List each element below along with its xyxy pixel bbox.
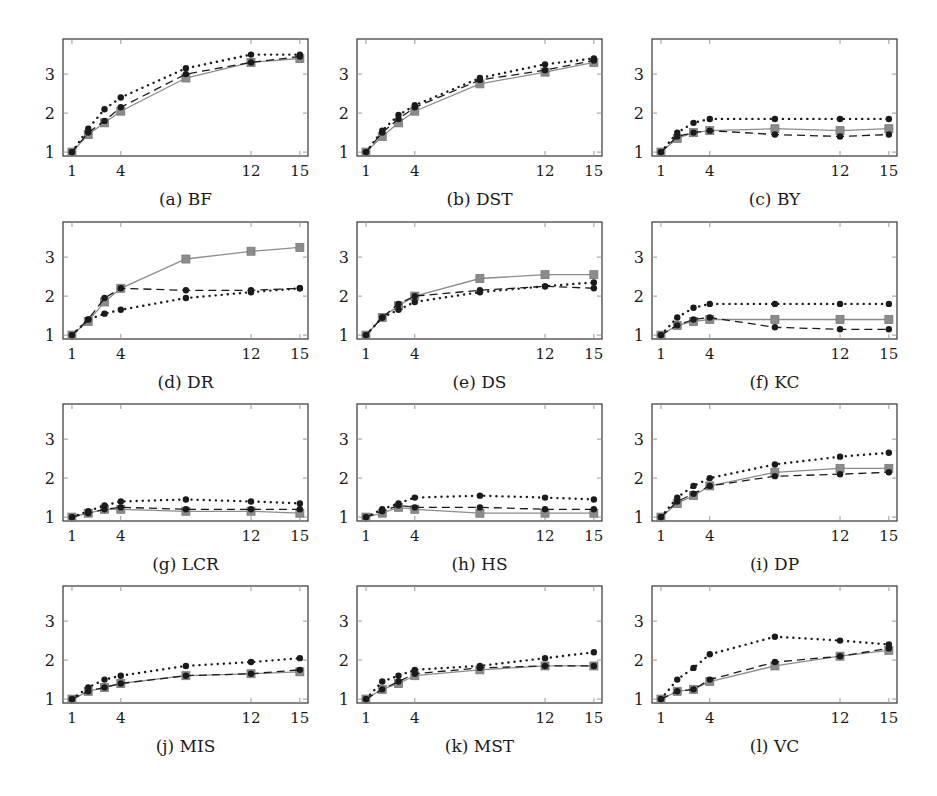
circle-marker-icon [886, 301, 892, 307]
circle-marker-icon [183, 295, 189, 301]
circle-marker-icon [412, 102, 418, 108]
circle-marker-icon [118, 94, 124, 100]
x-tick-label: 12 [535, 345, 554, 363]
y-tick-label: 1 [339, 143, 349, 162]
circle-marker-icon [837, 133, 843, 139]
y-tick-label: 2 [634, 469, 644, 488]
y-tick-label: 1 [339, 508, 349, 527]
square-marker-icon [476, 275, 484, 283]
x-tick-label: 1 [67, 345, 77, 363]
x-tick-label: 15 [290, 527, 309, 545]
circle-marker-icon [248, 289, 254, 295]
circle-marker-icon [837, 637, 843, 643]
y-tick-label: 2 [634, 287, 644, 306]
circle-marker-icon [690, 120, 696, 126]
circle-marker-icon [101, 684, 107, 690]
circle-marker-icon [542, 67, 548, 73]
circle-marker-icon [477, 289, 483, 295]
circle-marker-icon [183, 65, 189, 71]
circle-marker-icon [477, 492, 483, 498]
series-line-dashed [366, 60, 594, 152]
circle-marker-icon [658, 149, 664, 155]
circle-marker-icon [395, 673, 401, 679]
circle-marker-icon [412, 293, 418, 299]
circle-marker-icon [118, 504, 124, 510]
circle-marker-icon [674, 494, 680, 500]
circle-marker-icon [101, 106, 107, 112]
x-tick-label: 15 [879, 527, 898, 545]
x-tick-label: 12 [830, 162, 849, 180]
circle-marker-icon [183, 506, 189, 512]
chart-panel: 123141215(b) DST [317, 39, 611, 222]
circle-marker-icon [591, 506, 597, 512]
chart-panel: 123141215(g) LCR [23, 404, 317, 587]
y-tick-label: 3 [634, 65, 644, 84]
x-tick-label: 1 [656, 709, 666, 727]
x-tick-label: 12 [830, 527, 849, 545]
circle-marker-icon [886, 450, 892, 456]
circle-marker-icon [69, 514, 75, 520]
circle-marker-icon [69, 696, 75, 702]
circle-marker-icon [477, 75, 483, 81]
y-tick-label: 3 [339, 612, 349, 631]
y-tick-label: 1 [339, 326, 349, 345]
square-marker-icon [836, 316, 844, 324]
circle-marker-icon [297, 285, 303, 291]
axis-frame [652, 586, 897, 703]
circle-marker-icon [363, 514, 369, 520]
circle-marker-icon [591, 279, 597, 285]
circle-marker-icon [297, 667, 303, 673]
x-tick-label: 15 [879, 345, 898, 363]
circle-marker-icon [412, 504, 418, 510]
circle-marker-icon [690, 491, 696, 497]
y-tick-label: 2 [45, 287, 55, 306]
circle-marker-icon [85, 684, 91, 690]
circle-marker-icon [707, 301, 713, 307]
y-tick-label: 1 [45, 143, 55, 162]
y-tick-label: 1 [45, 326, 55, 345]
axis-frame [357, 39, 602, 156]
circle-marker-icon [690, 129, 696, 135]
x-tick-label: 1 [656, 162, 666, 180]
circle-marker-icon [658, 332, 664, 338]
x-tick-label: 4 [410, 527, 420, 545]
circle-marker-icon [412, 299, 418, 305]
y-tick-label: 2 [339, 651, 349, 670]
x-tick-label: 12 [535, 162, 554, 180]
circle-marker-icon [395, 307, 401, 313]
circle-marker-icon [183, 663, 189, 669]
chart-plot: 123141215 [23, 586, 317, 736]
circle-marker-icon [772, 473, 778, 479]
x-tick-label: 1 [361, 162, 371, 180]
chart-panel: 123141215(i) DP [612, 404, 906, 587]
circle-marker-icon [886, 131, 892, 137]
figure-grid: 123141215(a) BF123141215(b) DST123141215… [0, 0, 937, 796]
circle-marker-icon [248, 659, 254, 665]
circle-marker-icon [379, 127, 385, 133]
circle-marker-icon [772, 116, 778, 122]
circle-marker-icon [707, 127, 713, 133]
x-tick-label: 15 [584, 162, 603, 180]
circle-marker-icon [118, 307, 124, 313]
circle-marker-icon [118, 680, 124, 686]
chart-panel: 123141215(j) MIS [23, 586, 317, 769]
y-tick-label: 3 [339, 430, 349, 449]
chart-panel: 123141215(f) KC [612, 222, 906, 405]
circle-marker-icon [674, 314, 680, 320]
chart-plot: 123141215 [317, 404, 611, 554]
circle-marker-icon [297, 655, 303, 661]
x-tick-label: 4 [410, 709, 420, 727]
y-tick-label: 3 [45, 65, 55, 84]
x-tick-label: 15 [584, 345, 603, 363]
y-tick-label: 1 [45, 508, 55, 527]
circle-marker-icon [886, 116, 892, 122]
subfigure-caption: (g) LCR [63, 554, 308, 574]
x-tick-label: 1 [67, 709, 77, 727]
x-tick-label: 4 [705, 709, 715, 727]
subfigure-caption: (a) BF [63, 189, 308, 209]
circle-marker-icon [118, 498, 124, 504]
circle-marker-icon [101, 502, 107, 508]
circle-marker-icon [477, 663, 483, 669]
circle-marker-icon [886, 326, 892, 332]
x-tick-label: 15 [584, 527, 603, 545]
